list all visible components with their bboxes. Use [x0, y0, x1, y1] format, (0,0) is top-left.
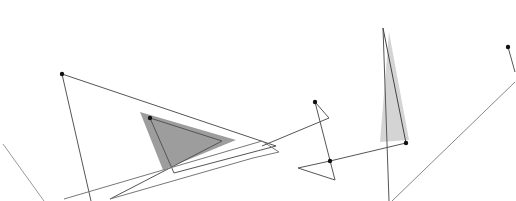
right-short-line — [508, 47, 515, 72]
vertex-dot-inner-triangle — [148, 116, 152, 120]
middle-zigzag — [262, 102, 329, 146]
far-left-diagonal — [3, 144, 44, 201]
line-shapes-group — [3, 28, 515, 201]
vertex-dot-middle-top — [313, 100, 317, 104]
vertex-dot-middle-junction — [328, 159, 332, 163]
right-long-diagonal — [392, 82, 515, 201]
vertex-dot-tall-triangle — [404, 141, 408, 145]
left-vertical-edge — [62, 74, 91, 201]
vertex-dot-right — [506, 45, 510, 49]
vertex-dots-group — [60, 45, 510, 163]
drawing-canvas — [0, 0, 516, 201]
vertex-dot-top-left — [60, 72, 64, 76]
